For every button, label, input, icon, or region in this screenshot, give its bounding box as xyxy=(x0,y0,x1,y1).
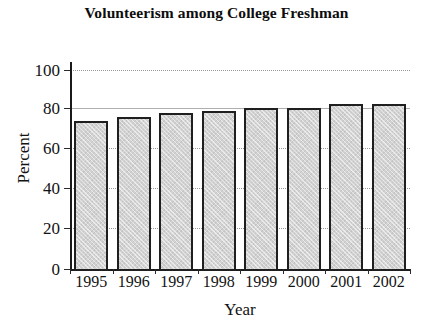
x-tick-mark-1999 xyxy=(240,269,241,274)
x-tick-mark-1995 xyxy=(70,269,71,274)
bar-1998 xyxy=(202,111,236,271)
bar-1997 xyxy=(159,113,193,271)
y-tick-label-0: 0 xyxy=(18,261,60,278)
x-tick-mark-2002 xyxy=(368,269,369,274)
x-tick-label-2002: 2002 xyxy=(368,274,411,290)
bar-2000 xyxy=(287,108,321,271)
y-tick-label-100: 100 xyxy=(18,62,60,79)
x-axis-tick-label-group: 1995 1996 1997 1998 1999 2000 2001 2002 xyxy=(70,274,410,298)
bar-2001 xyxy=(329,104,363,271)
y-tick-label-20: 20 xyxy=(18,220,60,237)
x-axis-title: Year xyxy=(70,300,410,320)
x-tick-label-2000: 2000 xyxy=(283,274,326,290)
x-tick-mark-end xyxy=(410,269,411,274)
bar-1995 xyxy=(74,121,108,271)
x-tick-label-2001: 2001 xyxy=(325,274,368,290)
x-tick-label-1996: 1996 xyxy=(113,274,156,290)
x-tick-label-1998: 1998 xyxy=(198,274,241,290)
y-axis-title: Percent xyxy=(14,103,34,213)
x-tick-mark-1996 xyxy=(113,269,114,274)
x-tick-label-1997: 1997 xyxy=(155,274,198,290)
x-tick-mark-1997 xyxy=(155,269,156,274)
x-tick-mark-1998 xyxy=(198,269,199,274)
x-tick-mark-2001 xyxy=(325,269,326,274)
bar-series xyxy=(70,62,410,271)
bar-1996 xyxy=(117,117,151,271)
x-tick-label-1995: 1995 xyxy=(70,274,113,290)
bar-2002 xyxy=(372,104,406,271)
bar-1999 xyxy=(244,108,278,271)
x-tick-mark-2000 xyxy=(283,269,284,274)
x-tick-label-1999: 1999 xyxy=(240,274,283,290)
chart-title: Volunteerism among College Freshman xyxy=(0,4,433,22)
